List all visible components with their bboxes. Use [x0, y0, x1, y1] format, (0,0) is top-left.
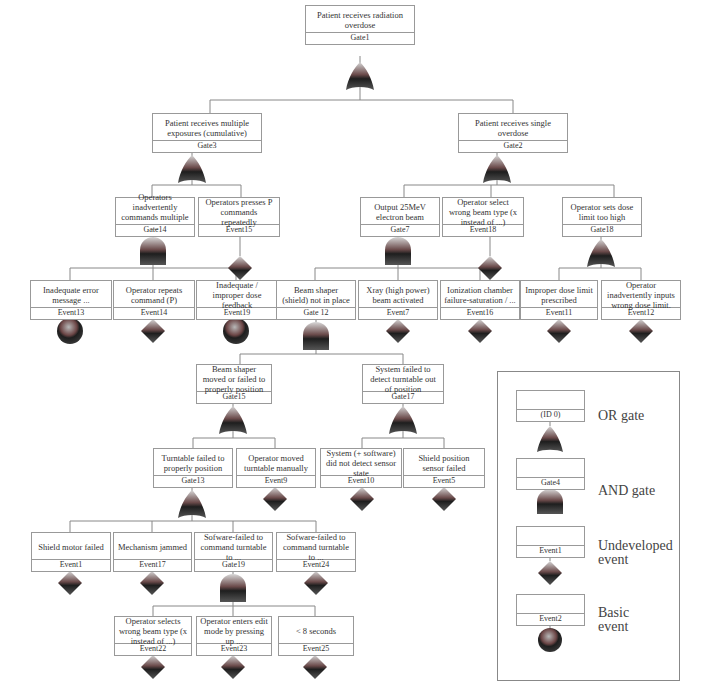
fault-node-event13[interactable]: Inadequate error message ... Event13 — [30, 280, 112, 320]
node-description: Mechanism jammed — [114, 533, 191, 559]
node-description: Shield position sensor failed — [404, 449, 484, 475]
node-description: Patient receives multiple exposures (cum… — [153, 114, 261, 140]
node-id: Event11 — [521, 307, 597, 319]
fault-node-event5[interactable]: Shield position sensor failed Event5 — [403, 448, 485, 488]
node-description: Operator sets dose limit too high — [563, 198, 641, 224]
fault-node-gate1[interactable]: Patient receives radiation overdose Gate… — [305, 5, 415, 45]
fault-node-gate18[interactable]: Operator sets dose limit too high Gate18 — [562, 197, 642, 237]
legend-panel: (ID 0) OR gate Gate4 AND gate Event1 Und… — [497, 371, 680, 681]
node-description: Operator moved turntable manually — [237, 449, 315, 475]
fault-node-gate13[interactable]: Turntable failed to properly position Ga… — [153, 448, 233, 488]
node-description: Sofware-failed to command turntable to .… — [277, 533, 355, 559]
fault-node-event7[interactable]: Xray (high power) beam activated Event7 — [358, 280, 438, 320]
node-id: Event14 — [114, 307, 194, 319]
fault-node-gate2[interactable]: Patient receives single overdose Gate2 — [458, 113, 568, 153]
node-id: Gate13 — [154, 475, 232, 487]
node-description: Patient receives radiation overdose — [306, 6, 414, 32]
fault-node-event9[interactable]: Operator moved turntable manually Event9 — [236, 448, 316, 488]
fault-node-event25[interactable]: < 8 seconds Event25 — [278, 616, 354, 656]
fault-node-event17[interactable]: Mechanism jammed Event17 — [113, 532, 192, 572]
legend-node-id: Event2 — [517, 613, 584, 625]
legend-undeveloped-box: Event1 — [516, 526, 585, 558]
node-description: System failed to detect turntable out of… — [363, 365, 443, 391]
node-description: Operator inadvertently inputs wrong dose… — [602, 281, 680, 307]
undeveloped-event-icon — [538, 561, 562, 585]
fault-node-gate15[interactable]: Beam shaper moved or failed to properly … — [196, 364, 272, 404]
node-description: Beam shaper moved or failed to properly … — [197, 365, 271, 391]
node-description: Improper dose limit prescribed — [521, 281, 597, 307]
fault-node-event22[interactable]: Operator selects wrong beam type (x inst… — [114, 616, 192, 656]
fault-node-gate7[interactable]: Output 25MeV electron beam Gate7 — [360, 197, 440, 237]
node-description: Inadequate / improper dose feedback — [197, 281, 277, 307]
node-description: Output 25MeV electron beam — [361, 198, 439, 224]
node-description: < 8 seconds — [279, 617, 353, 643]
node-description: Operators presses P commands repeatedly — [199, 198, 279, 224]
node-id: Gate3 — [153, 140, 261, 152]
legend-label-undeveloped-2: event — [598, 552, 628, 568]
legend-or-gate-box: (ID 0) — [516, 390, 585, 422]
fault-node-gate3[interactable]: Patient receives multiple exposures (cum… — [152, 113, 262, 153]
node-id: Event5 — [404, 475, 484, 487]
fault-node-gate17[interactable]: System failed to detect turntable out of… — [362, 364, 444, 404]
node-id: Event13 — [31, 307, 111, 319]
node-description: Operators inadvertently commands multipl… — [116, 198, 194, 224]
legend-node-id: (ID 0) — [517, 409, 584, 421]
legend-label-or-gate: OR gate — [598, 408, 644, 424]
fault-node-event12[interactable]: Operator inadvertently inputs wrong dose… — [601, 280, 681, 320]
node-description: Shield motor failed — [32, 533, 110, 559]
fault-node-gate19[interactable]: Sofware-failed to command turntable to .… — [194, 532, 273, 572]
fault-node-event24[interactable]: Sofware-failed to command turntable to .… — [276, 532, 356, 572]
node-id: Event9 — [237, 475, 315, 487]
fault-node-event19[interactable]: Inadequate / improper dose feedback Even… — [196, 280, 278, 320]
node-description: Inadequate error message ... — [31, 281, 111, 307]
legend-and-gate-box: Gate4 — [516, 458, 585, 490]
fault-node-event18[interactable]: Operator select wrong beam type (x inste… — [442, 197, 524, 237]
node-description: Patient receives single overdose — [459, 114, 567, 140]
fault-node-event15[interactable]: Operators presses P commands repeatedly … — [198, 197, 280, 237]
node-description: Sofware-failed to command turntable to .… — [195, 533, 272, 559]
node-id: Gate18 — [563, 224, 641, 236]
legend-node-id: Gate4 — [517, 477, 584, 489]
node-id: Gate2 — [459, 140, 567, 152]
legend-node-id: Event1 — [517, 545, 584, 557]
node-description: Ionization chamber failure-saturation / … — [441, 281, 519, 307]
and-gate-icon — [537, 489, 563, 514]
fault-node-event1[interactable]: Shield motor failed Event1 — [31, 532, 111, 572]
node-id: Gate1 — [306, 32, 414, 44]
node-id: Event16 — [441, 307, 519, 319]
node-description: Turntable failed to properly position — [154, 449, 232, 475]
fault-tree-diagram: Patient receives radiation overdose Gate… — [0, 0, 708, 699]
fault-node-event10[interactable]: System (+ software) did not detect senso… — [320, 448, 402, 488]
node-description: System (+ software) did not detect senso… — [321, 449, 401, 475]
fault-node-gate14[interactable]: Operators inadvertently commands multipl… — [115, 197, 195, 237]
node-id: Event1 — [32, 559, 110, 571]
fault-node-event11[interactable]: Improper dose limit prescribed Event11 — [520, 280, 598, 320]
node-description: Beam shaper (shield) not in place — [277, 281, 355, 307]
node-description: Xray (high power) beam activated — [359, 281, 437, 307]
or-gate-icon — [537, 426, 563, 452]
node-id: Event7 — [359, 307, 437, 319]
node-id: Event17 — [114, 559, 191, 571]
fault-node-event14[interactable]: Operator repeats command (P) Event14 — [113, 280, 195, 320]
node-id: Gate7 — [361, 224, 439, 236]
node-id: Event25 — [279, 643, 353, 655]
node-id: Gate 12 — [277, 307, 355, 319]
node-description: Operator repeats command (P) — [114, 281, 194, 307]
legend-label-basic-2: event — [598, 619, 628, 635]
node-description: Operator enters edit mode by pressing up… — [197, 617, 271, 643]
legend-basic-box: Event2 — [516, 594, 585, 626]
fault-node-event16[interactable]: Ionization chamber failure-saturation / … — [440, 280, 520, 320]
node-description: Operator select wrong beam type (x inste… — [443, 198, 523, 224]
fault-node-gate12[interactable]: Beam shaper (shield) not in place Gate 1… — [276, 280, 356, 320]
basic-event-icon — [538, 628, 562, 652]
legend-label-and-gate: AND gate — [598, 483, 655, 499]
node-description: Operator selects wrong beam type (x inst… — [115, 617, 191, 643]
fault-node-event23[interactable]: Operator enters edit mode by pressing up… — [196, 616, 272, 656]
